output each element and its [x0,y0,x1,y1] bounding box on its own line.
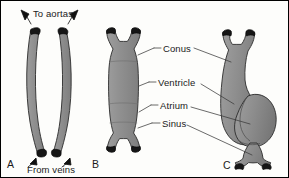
label-ventricle: Ventricle [158,78,195,88]
panel-b-left-venous-end [106,146,115,152]
panel-a-right-tube-aortic-end [58,28,68,35]
heart-development-figure: Conus Ventricle Atrium Sinus To aortas F… [0,0,289,178]
label-from-veins: From veins [27,165,75,175]
panel-a-left-tube-venous-end [37,149,47,157]
label-to-aortas: To aortas [33,9,73,19]
panel-a-left-tube-aortic-end [30,28,40,35]
panel-c-left-aortic-end [222,30,231,36]
panel-b-right-venous-end [132,146,141,152]
panel-b-left-aortic-end [106,28,115,34]
label-atrium: Atrium [160,101,188,111]
figure-canvas [0,0,289,178]
label-conus: Conus [163,44,191,54]
panel-label-a: A [7,159,14,170]
panel-c-right-aortic-end [246,30,255,36]
panel-label-c: C [223,160,231,171]
label-sinus: Sinus [162,119,186,129]
panel-b-right-aortic-end [132,28,141,34]
panel-label-b: B [92,159,99,170]
panel-a-right-tube-venous-end [51,149,61,157]
panel-c-right-venous-end [262,164,271,170]
panel-c-left-venous-end [235,164,244,170]
